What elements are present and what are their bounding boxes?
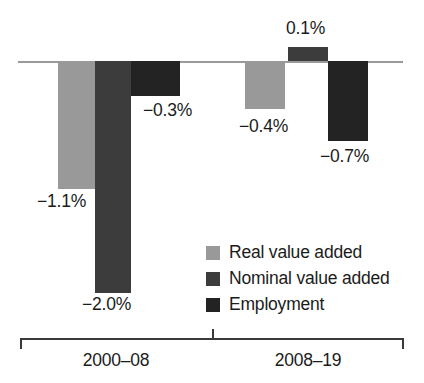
bar-2000-08-real-value-added[interactable]	[58, 61, 95, 189]
bar-2008-19-real-value-added[interactable]	[245, 61, 285, 109]
category-axis-tick-left	[20, 338, 22, 349]
bar-2008-19-nominal-value-added[interactable]	[288, 47, 328, 61]
bar-label-2008-19-employment: −0.7%	[320, 148, 369, 166]
bar-label-2000-08-employment: −0.3%	[143, 102, 192, 120]
category-axis-tick-middle	[212, 329, 214, 339]
bar-2000-08-employment[interactable]	[131, 61, 180, 96]
legend-item-real-value-added[interactable]: Real value added	[206, 241, 390, 264]
legend-swatch-icon-employment	[206, 298, 220, 312]
bar-label-2008-19-nominal-value-added: 0.1%	[286, 20, 325, 38]
legend: Real value added Nominal value added Emp…	[206, 241, 390, 319]
category-axis-tick-right	[402, 338, 404, 349]
legend-swatch-icon-nominal-value-added	[206, 272, 220, 286]
bar-label-2008-19-real-value-added: −0.4%	[239, 118, 288, 136]
bar-2000-08-nominal-value-added[interactable]	[95, 61, 131, 293]
legend-item-employment[interactable]: Employment	[206, 293, 390, 316]
bar-label-2000-08-nominal-value-added: −2.0%	[82, 296, 131, 314]
category-label-2000-08: 2000–08	[20, 352, 212, 370]
legend-item-nominal-value-added[interactable]: Nominal value added	[206, 267, 390, 290]
bar-chart: −1.1% −2.0% −0.3% −0.4% 0.1% −0.7% Real …	[0, 0, 424, 383]
legend-label-employment: Employment	[229, 296, 324, 314]
legend-label-real-value-added: Real value added	[229, 244, 362, 262]
legend-label-nominal-value-added: Nominal value added	[229, 270, 390, 288]
bar-2008-19-employment[interactable]	[328, 61, 368, 141]
category-axis: 2000–08 2008–19	[0, 330, 424, 383]
bar-label-2000-08-real-value-added: −1.1%	[37, 193, 86, 211]
plot-area: −1.1% −2.0% −0.3% −0.4% 0.1% −0.7% Real …	[0, 0, 424, 330]
category-label-2008-19: 2008–19	[212, 352, 404, 370]
legend-swatch-icon-real-value-added	[206, 246, 220, 260]
